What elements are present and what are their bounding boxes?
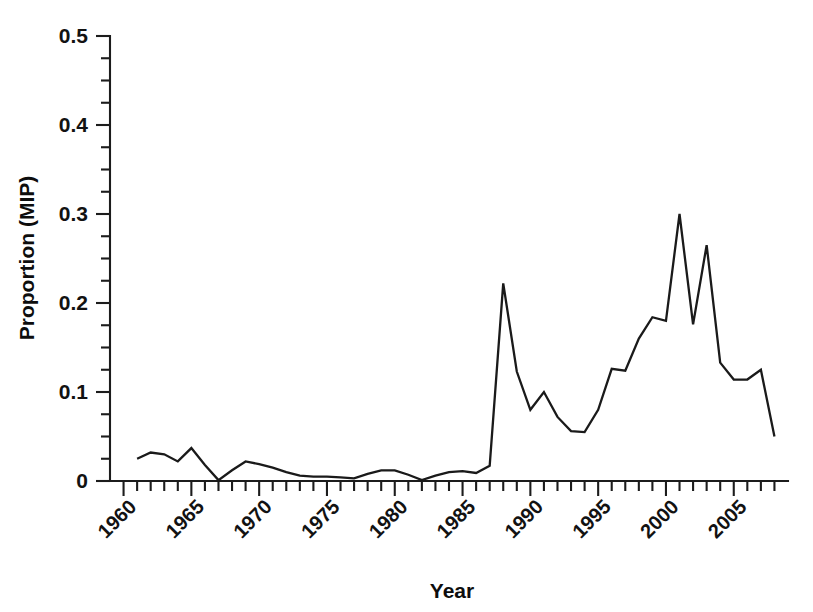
y-tick-label: 0.2 bbox=[59, 291, 88, 314]
chart-canvas: 00.10.20.30.40.5 19601965197019751980198… bbox=[0, 0, 813, 612]
y-axis-title: Proportion (MIP) bbox=[15, 176, 38, 340]
y-tick-label: 0.5 bbox=[59, 24, 89, 47]
y-tick-label: 0.1 bbox=[59, 380, 89, 403]
data-series-line bbox=[137, 214, 774, 480]
x-axis-minor-ticks bbox=[137, 481, 774, 491]
x-tick-label: 1960 bbox=[93, 495, 140, 542]
x-tick-label: 1965 bbox=[161, 495, 208, 542]
y-tick-label: 0.3 bbox=[59, 202, 88, 225]
x-tick-label: 2000 bbox=[636, 495, 683, 542]
y-tick-label: 0.4 bbox=[59, 113, 89, 136]
y-axis-group: 00.10.20.30.40.5 bbox=[59, 24, 110, 492]
x-tick-label: 1970 bbox=[229, 495, 276, 542]
y-tick-label: 0 bbox=[76, 469, 88, 492]
x-axis-major-ticks bbox=[124, 481, 734, 496]
x-tick-label: 2005 bbox=[704, 495, 751, 542]
y-axis-minor-ticks bbox=[101, 58, 110, 459]
x-axis-tick-labels: 1960196519701975198019851990199520002005 bbox=[93, 495, 750, 542]
x-tick-label: 1995 bbox=[568, 495, 615, 542]
x-tick-label: 1990 bbox=[500, 495, 547, 542]
x-tick-label: 1985 bbox=[432, 495, 479, 542]
x-axis-title: Year bbox=[430, 579, 474, 602]
line-chart: 00.10.20.30.40.5 19601965197019751980198… bbox=[0, 0, 813, 612]
y-axis-tick-labels: 00.10.20.30.40.5 bbox=[59, 24, 89, 492]
x-tick-label: 1975 bbox=[297, 495, 344, 542]
x-tick-label: 1980 bbox=[365, 495, 412, 542]
x-axis-group: 1960196519701975198019851990199520002005 bbox=[93, 481, 788, 542]
